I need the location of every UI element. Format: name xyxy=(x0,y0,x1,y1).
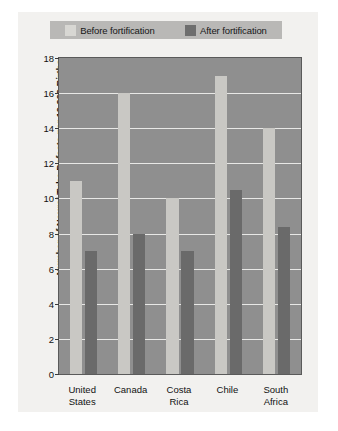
y-tick-mark xyxy=(55,93,59,94)
x-tick-label: Chile xyxy=(217,384,239,396)
y-tick-mark xyxy=(55,128,59,129)
chart-legend: Before fortification After fortification xyxy=(50,21,282,39)
y-tick-mark xyxy=(55,269,59,270)
x-tick-label: Canada xyxy=(114,384,147,396)
x-tick-label: CostaRica xyxy=(167,384,192,407)
bar xyxy=(70,181,82,374)
legend-item-after-fortification: After fortification xyxy=(185,25,267,36)
bar xyxy=(215,76,227,374)
bar xyxy=(230,190,242,374)
bar xyxy=(166,198,178,374)
y-tick-mark xyxy=(55,339,59,340)
bar xyxy=(278,227,290,374)
x-axis-labels: UnitedStatesCanadaCostaRicaChileSouthAfr… xyxy=(58,378,302,412)
y-tick-label: 18 xyxy=(43,53,54,64)
y-tick-label: 4 xyxy=(49,298,54,309)
y-tick-mark xyxy=(55,374,59,375)
gridline xyxy=(59,93,301,94)
y-tick-mark xyxy=(55,234,59,235)
y-tick-label: 6 xyxy=(49,263,54,274)
y-tick-label: 14 xyxy=(43,123,54,134)
legend-label-before-fortification: Before fortification xyxy=(80,25,155,36)
bar xyxy=(85,251,97,374)
bar xyxy=(133,234,145,374)
legend-label-after-fortification: After fortification xyxy=(200,25,267,36)
plot-area: 024681012141618 xyxy=(58,57,302,375)
y-tick-mark xyxy=(55,304,59,305)
y-tick-label: 8 xyxy=(49,228,54,239)
x-tick-label: UnitedStates xyxy=(68,384,95,407)
after-fortification-swatch xyxy=(185,25,196,36)
chart-figure: Before fortification After fortification… xyxy=(18,12,318,412)
bar xyxy=(181,251,193,374)
y-tick-label: 0 xyxy=(49,369,54,380)
legend-item-before-fortification: Before fortification xyxy=(65,25,155,36)
x-tick-label: SouthAfrica xyxy=(263,384,288,407)
y-tick-label: 2 xyxy=(49,333,54,344)
y-tick-mark xyxy=(55,198,59,199)
bar xyxy=(263,128,275,374)
y-tick-mark xyxy=(55,163,59,164)
y-tick-label: 16 xyxy=(43,88,54,99)
bar xyxy=(118,93,130,374)
y-tick-label: 12 xyxy=(43,158,54,169)
y-tick-label: 10 xyxy=(43,193,54,204)
y-tick-mark xyxy=(55,58,59,59)
before-fortification-swatch xyxy=(65,25,76,36)
